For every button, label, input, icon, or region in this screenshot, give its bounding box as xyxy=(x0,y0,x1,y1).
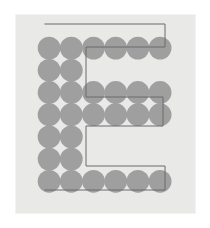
matrix-dot xyxy=(82,103,105,126)
matrix-dot xyxy=(82,170,105,193)
matrix-dot xyxy=(38,125,61,148)
matrix-dot xyxy=(60,59,83,82)
matrix-dot xyxy=(104,81,127,104)
matrix-dot xyxy=(149,37,172,60)
matrix-dot xyxy=(126,37,149,60)
matrix-dot xyxy=(149,103,172,126)
matrix-dot xyxy=(38,170,61,193)
matrix-dot xyxy=(60,81,83,104)
matrix-dot xyxy=(149,81,172,104)
matrix-dot xyxy=(126,103,149,126)
matrix-dot xyxy=(60,170,83,193)
matrix-dot xyxy=(38,81,61,104)
canvas-root xyxy=(0,0,210,228)
matrix-dot xyxy=(38,103,61,126)
matrix-dot xyxy=(60,148,83,171)
matrix-dot xyxy=(60,103,83,126)
dot-matrix xyxy=(38,37,172,193)
matrix-dot xyxy=(38,37,61,60)
matrix-dot xyxy=(149,170,172,193)
letter-e-figure xyxy=(0,0,210,228)
matrix-dot xyxy=(38,59,61,82)
matrix-dot xyxy=(104,170,127,193)
matrix-dot xyxy=(38,148,61,171)
matrix-dot xyxy=(126,81,149,104)
matrix-dot xyxy=(126,170,149,193)
matrix-dot xyxy=(60,37,83,60)
matrix-dot xyxy=(104,37,127,60)
matrix-dot xyxy=(104,103,127,126)
matrix-dot xyxy=(60,125,83,148)
